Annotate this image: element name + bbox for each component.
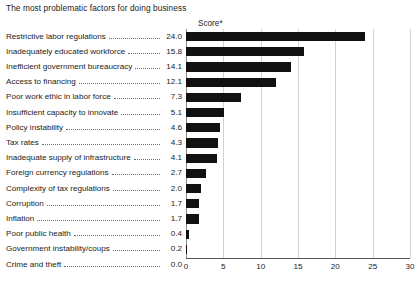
category-value: 24.0 [162,32,184,42]
category-label-column: Restrictive labor regulations24.0Inadequ… [0,29,184,258]
category-label: Corruption [0,199,44,209]
category-value: 1.7 [162,199,184,209]
dot-leader [79,78,160,87]
category-label: Access to financing [0,77,76,87]
dot-leader [112,169,160,178]
chart-figure: The most problematic factors for doing b… [0,0,420,284]
category-value: 5.1 [162,108,184,118]
category-label-row: Poor work ethic in labor force7.3 [0,90,184,105]
bar [186,184,201,193]
dot-leader [134,154,160,163]
category-value: 4.6 [162,123,184,133]
category-label: Poor work ethic in labor force [0,92,111,102]
category-label-row: Government instability/coups0.2 [0,242,184,257]
bar-row [186,75,410,90]
category-value: 0.2 [162,244,184,254]
dot-leader [114,93,160,102]
bar [186,93,241,102]
category-label-row: Poor public health0.4 [0,227,184,242]
dot-leader [47,199,160,208]
bar [186,138,218,147]
category-label: Inefficient government bureaucracy [0,62,132,72]
category-label-row: Policy instability4.6 [0,120,184,135]
category-label: Complexity of tax regulations [0,184,110,194]
bar-row [186,227,410,242]
dot-leader [135,62,159,71]
dot-leader [42,138,160,147]
bar [186,108,224,117]
bar [186,199,199,208]
category-value: 0.4 [162,229,184,239]
x-axis-tick-labels: 051015202530 [186,261,410,275]
category-value: 2.0 [162,184,184,194]
category-label: Restrictive labor regulations [0,32,106,42]
bar [186,214,199,223]
dot-leader [113,184,160,193]
category-label: Poor public health [0,229,71,239]
category-label: Crime and theft [0,260,61,270]
category-label-row: Restrictive labor regulations24.0 [0,29,184,44]
category-label: Insufficient capacity to innovate [0,108,118,118]
x-tick-label: 10 [256,261,265,272]
x-tick-label: 20 [331,261,340,272]
category-value: 15.8 [162,47,184,57]
category-label-row: Crime and theft0.0 [0,257,184,272]
bar-row [186,59,410,74]
bar-row [186,196,410,211]
dot-leader [109,32,160,41]
category-label-row: Corruption1.7 [0,196,184,211]
x-axis-line [186,258,410,259]
dot-leader [37,214,159,223]
bar-row [186,90,410,105]
bar-row [186,135,410,150]
bar [186,169,206,178]
bar-row [186,29,410,44]
x-tick-label: 30 [405,261,414,272]
bar-row [186,166,410,181]
category-label: Policy instability [0,123,63,133]
x-tick-label: 5 [221,261,226,272]
category-label-row: Inefficient government bureaucracy14.1 [0,59,184,74]
category-value: 12.1 [162,77,184,87]
category-label: Inadequately educated workforce [0,47,125,57]
bar [186,62,291,71]
category-label-row: Foreign currency regulations2.7 [0,166,184,181]
score-column-header: Score* [198,19,223,29]
category-label-row: Access to financing12.1 [0,75,184,90]
page-title: The most problematic factors for doing b… [6,3,186,14]
category-label-row: Complexity of tax regulations2.0 [0,181,184,196]
category-label-row: Inadequately educated workforce15.8 [0,44,184,59]
bar-row [186,120,410,135]
bar [186,47,304,56]
bar-row [186,44,410,59]
bar-row [186,242,410,257]
bar [186,78,276,87]
dot-leader [74,230,160,239]
bar [186,32,365,41]
x-tick-label: 15 [293,261,302,272]
category-label: Tax rates [0,138,39,148]
category-value: 0.0 [162,260,184,270]
dot-leader [113,245,160,254]
category-label: Inflation [0,214,34,224]
category-label-row: Insufficient capacity to innovate5.1 [0,105,184,120]
category-value: 2.7 [162,168,184,178]
category-value: 4.1 [162,153,184,163]
dot-leader [121,108,159,117]
category-label-row: Inflation1.7 [0,211,184,226]
x-tick-label: 25 [368,261,377,272]
dot-leader [64,260,159,269]
plot-area [186,29,410,258]
category-label-row: Inadequate supply of infrastructure4.1 [0,151,184,166]
bar [186,154,217,163]
category-label: Foreign currency regulations [0,168,109,178]
category-value: 1.7 [162,214,184,224]
dot-leader [66,123,159,132]
category-label-row: Tax rates4.3 [0,135,184,150]
bar [186,123,220,132]
bar-row [186,181,410,196]
gridline [410,29,411,258]
category-value: 14.1 [162,62,184,72]
dot-leader [128,47,159,56]
category-label: Inadequate supply of infrastructure [0,153,131,163]
